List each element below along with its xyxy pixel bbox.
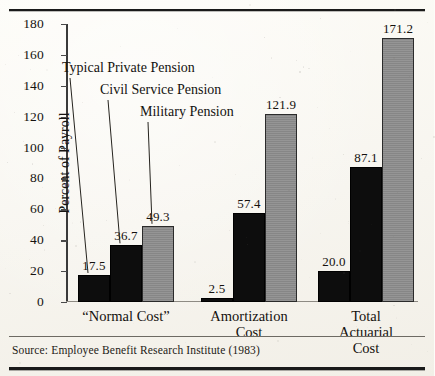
bar-value-label: 20.0	[322, 254, 346, 270]
speckle	[409, 76, 410, 77]
bar	[350, 167, 382, 302]
y-axis-tick-label: 60	[4, 201, 44, 217]
speckle	[229, 230, 230, 231]
speckle	[343, 154, 344, 155]
bar	[233, 213, 265, 302]
speckle	[29, 259, 30, 260]
speckle	[18, 55, 19, 56]
y-axis-tick-label: 40	[4, 232, 44, 248]
bar	[78, 275, 110, 302]
speckle	[44, 249, 46, 251]
speckle	[264, 37, 265, 38]
y-axis-tick	[61, 86, 67, 87]
y-axis-tick-label: 140	[4, 78, 44, 94]
speckle	[203, 307, 204, 308]
bar-value-label: 36.7	[114, 228, 138, 244]
speckle	[396, 317, 398, 319]
y-axis-title: Percent of Payroll	[57, 112, 73, 213]
speckle	[356, 326, 357, 327]
speckle	[382, 158, 383, 159]
speckle	[393, 305, 394, 306]
bar-value-label: 171.2	[383, 21, 413, 37]
y-axis-tick-label: 80	[4, 170, 44, 186]
speckle	[320, 18, 321, 19]
speckle	[411, 344, 412, 345]
speckle	[427, 22, 428, 23]
category-label-line: Total	[339, 308, 393, 324]
speckle	[352, 340, 353, 341]
speckle	[348, 221, 349, 222]
series-callout-label: Typical Private Pension	[62, 60, 195, 76]
speckle	[46, 69, 47, 70]
y-axis-tick	[61, 55, 67, 56]
category-label-line: “Normal Cost”	[82, 308, 169, 324]
category-label-line: Cost	[210, 324, 287, 340]
source-divider-rule	[9, 336, 425, 337]
y-axis-tick	[61, 117, 67, 118]
bar-value-label: 49.3	[146, 209, 170, 225]
speckle	[427, 351, 428, 352]
category-label-line: Actuarial Cost	[339, 324, 393, 356]
speckle	[24, 87, 26, 89]
speckle	[277, 340, 279, 342]
y-axis-tick	[61, 302, 67, 303]
bottom-rule	[9, 367, 425, 370]
speckle	[312, 157, 313, 158]
speckle	[212, 77, 213, 78]
speckle	[30, 69, 31, 70]
speckle	[421, 158, 422, 159]
bar-value-label: 87.1	[354, 150, 378, 166]
bar-value-label: 121.9	[266, 97, 296, 113]
speckle	[23, 141, 24, 142]
speckle	[393, 57, 395, 59]
speckle	[249, 4, 251, 6]
y-axis-tick-label: 100	[4, 140, 44, 156]
speckle	[303, 66, 304, 67]
speckle	[7, 162, 8, 163]
speckle	[5, 268, 6, 269]
x-axis-category-label: “Normal Cost”	[82, 308, 169, 324]
speckle	[157, 237, 159, 239]
speckle	[247, 244, 248, 245]
speckle	[343, 272, 345, 274]
bar-value-label: 57.4	[237, 196, 261, 212]
y-axis-tick	[61, 240, 67, 241]
speckle	[120, 46, 121, 47]
speckle	[19, 362, 21, 364]
y-axis-tick-label: 180	[4, 16, 44, 32]
bar	[201, 298, 233, 302]
speckle	[80, 221, 82, 223]
y-axis-tick	[61, 271, 67, 272]
speckle	[299, 71, 300, 72]
speckle	[394, 9, 396, 11]
y-axis-tick	[61, 24, 67, 25]
speckle	[5, 64, 6, 65]
speckle	[32, 163, 34, 165]
speckle	[397, 192, 398, 193]
category-label-line: Amortization	[210, 308, 287, 324]
speckle	[279, 97, 280, 98]
speckle	[179, 165, 180, 166]
top-rule	[9, 9, 425, 11]
y-axis-tick-label: 120	[4, 109, 44, 125]
y-axis-tick	[61, 148, 67, 149]
bar-value-label: 17.5	[82, 258, 106, 274]
speckle	[359, 250, 361, 252]
y-axis-tick	[61, 209, 67, 210]
cropped-title-fragment	[150, 0, 270, 6]
bar	[265, 114, 297, 302]
source-note: Source: Employee Benefit Research Instit…	[12, 344, 260, 356]
speckle	[108, 318, 110, 320]
speckle	[43, 225, 44, 226]
speckle	[240, 126, 241, 127]
speckle	[350, 51, 351, 52]
speckle	[320, 233, 321, 234]
speckle	[177, 28, 178, 29]
speckle	[214, 141, 215, 142]
y-axis-tick-label: 0	[4, 294, 44, 310]
bar-value-label: 2.5	[209, 281, 226, 297]
speckle	[192, 84, 193, 85]
y-axis-tick-label: 160	[4, 47, 44, 63]
series-callout-label: Military Pension	[140, 104, 234, 120]
